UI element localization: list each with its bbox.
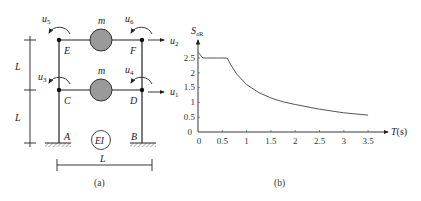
dof-u3-rotation-icon: u3 — [38, 71, 70, 84]
spectrum-curve — [198, 52, 368, 115]
fixed-support-B — [130, 143, 156, 147]
dof-u6-rotation-icon: u6 — [125, 13, 152, 34]
node-label-A: A — [63, 131, 71, 142]
svg-text:3.5: 3.5 — [362, 136, 374, 146]
frame-diagram: m m E F C D A B EI u2 u1 — [14, 13, 179, 189]
svg-text:0: 0 — [197, 136, 202, 146]
mass-top — [90, 29, 112, 51]
svg-text:3: 3 — [342, 136, 347, 146]
fixed-support-A — [45, 143, 71, 147]
joint-C — [57, 88, 61, 92]
svg-text:L: L — [99, 153, 106, 164]
joint-F — [140, 38, 144, 42]
svg-text:u3: u3 — [38, 71, 47, 84]
node-label-E: E — [63, 45, 70, 56]
dof-u2-arrow: u2 — [148, 35, 179, 48]
dof-u5-rotation-icon: u5 — [42, 13, 70, 34]
node-label-F: F — [129, 45, 137, 56]
node-label-D: D — [129, 95, 138, 106]
dim-label-upper: L — [14, 61, 21, 72]
svg-text:2: 2 — [293, 136, 298, 146]
svg-text:u6: u6 — [125, 13, 134, 26]
stiffness-label: EI — [94, 136, 105, 146]
mass-middle — [90, 79, 112, 101]
svg-text:2: 2 — [191, 68, 196, 78]
y-axis-label: SaR — [191, 25, 204, 37]
svg-text:0: 0 — [188, 127, 193, 137]
svg-text:u2: u2 — [170, 35, 179, 48]
joint-D — [140, 88, 144, 92]
dof-u4-rotation-icon: u4 — [125, 64, 152, 84]
svg-text:2.5: 2.5 — [314, 136, 326, 146]
svg-text:0.5: 0.5 — [217, 136, 229, 146]
figure-canvas: m m E F C D A B EI u2 u1 — [0, 0, 421, 201]
svg-text:1: 1 — [191, 97, 196, 107]
svg-text:0.5: 0.5 — [184, 112, 196, 122]
response-spectrum-chart: SaR T(s) 0 0.5 1 1.5 2 2.5 0 0.5 — [184, 25, 407, 189]
svg-text:u1: u1 — [170, 86, 179, 99]
svg-text:1.5: 1.5 — [184, 82, 196, 92]
mass-label-top: m — [98, 15, 105, 26]
dimension-width: L — [57, 153, 152, 171]
dof-u1-arrow: u1 — [148, 86, 179, 99]
node-label-C: C — [64, 95, 71, 106]
svg-text:u4: u4 — [125, 64, 134, 77]
svg-text:1: 1 — [244, 136, 249, 146]
joint-E — [57, 38, 61, 42]
x-axis-label: T(s) — [391, 126, 407, 138]
svg-text:2.5: 2.5 — [184, 53, 196, 63]
dimension-height: L L — [14, 36, 36, 147]
svg-text:1.5: 1.5 — [265, 136, 277, 146]
node-label-B: B — [131, 131, 137, 142]
caption-a: (a) — [94, 178, 105, 189]
mass-label-middle: m — [98, 65, 105, 76]
caption-b: (b) — [274, 178, 285, 189]
dim-label-lower: L — [14, 112, 21, 123]
svg-text:u5: u5 — [42, 13, 51, 26]
